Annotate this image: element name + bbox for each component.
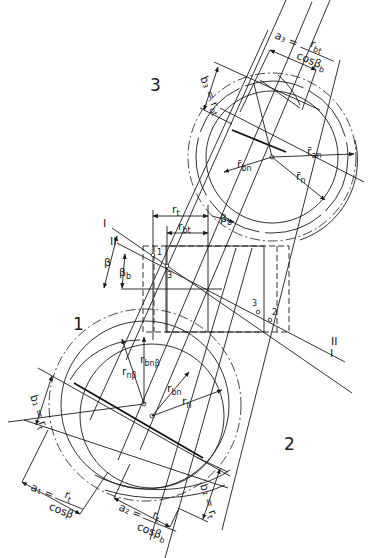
svg-text:a₂ =: a₂ =	[117, 501, 144, 522]
beta-b-label: βb	[119, 266, 131, 281]
band-line-3	[126, 0, 286, 360]
point-1-label: 1	[157, 248, 162, 257]
ext-a1-right	[80, 472, 108, 514]
rn-bar-label: r̄n	[296, 170, 306, 185]
line-I-bottom-label: I	[330, 347, 333, 360]
b3-formula: b₃ = rbt	[195, 74, 224, 117]
svg-text:a₃ =: a₃ =	[273, 29, 300, 50]
point-2	[268, 318, 272, 322]
svg-text:rt: rt	[62, 488, 75, 505]
region-1-label: 1	[73, 314, 84, 334]
rn-label: rn	[182, 395, 192, 410]
a2-formula: a₂ = rt cosβb	[112, 495, 181, 548]
region-2-label: 2	[284, 434, 295, 454]
line-II-top-label: II	[110, 235, 117, 248]
svg-text:b₂ = rt: b₂ = rt	[195, 482, 220, 520]
section-3-group	[188, 50, 364, 241]
point-3a-label: 3	[167, 271, 172, 280]
ext-a2-left	[114, 464, 130, 498]
b2-formula: b₂ = rt	[195, 482, 220, 520]
band-line-2	[118, 2, 312, 460]
point-3a	[165, 264, 169, 268]
gear-geometry-diagram: 3 1 2 I II II I 1 3 3 2 β βb βb rt rbt a…	[0, 0, 376, 558]
line-I-top-label: I	[103, 217, 106, 230]
b1-formula: b₁ = rt	[25, 393, 50, 431]
ext-a1-left	[22, 430, 48, 482]
a3-formula: a₃ = rbt cosβb	[268, 23, 339, 77]
svg-text:b₁ = rt: b₁ = rt	[25, 393, 50, 431]
region-3-label: 3	[150, 75, 161, 95]
rbn-bar-label: r̄bn	[237, 158, 252, 173]
rbn-label: rbn	[167, 382, 182, 397]
point-3b	[256, 310, 260, 314]
tangent-line-3	[232, 130, 286, 152]
band-line-6	[150, 248, 236, 540]
ran-bar-label: r̄an	[307, 145, 322, 160]
ext-a3-right	[302, 70, 316, 110]
band-line-7	[222, 60, 340, 530]
point-3b-label: 3	[252, 299, 257, 308]
svg-text:a₁ =: a₁ =	[29, 481, 56, 502]
beta-label: β	[104, 256, 111, 269]
point-1	[151, 253, 155, 257]
point-2-label: 2	[272, 308, 277, 317]
svg-text:cosβ: cosβ	[47, 500, 76, 522]
rbnbeta-label: rbnβ	[140, 353, 160, 368]
beta-b-top-label: βb	[220, 212, 232, 227]
rt-label: rt	[172, 203, 180, 218]
ext-b2-top	[196, 457, 228, 472]
ext-b2-bottom	[178, 508, 208, 522]
svg-text:cosβb: cosβb	[294, 49, 328, 75]
rnbeta-label: rnβ	[122, 365, 137, 380]
radial-line-3	[254, 84, 272, 157]
construction-line-1c	[8, 404, 144, 422]
svg-text:b₃ = rbt: b₃ = rbt	[195, 74, 224, 117]
a1-formula: a₁ = rt cosβ	[25, 475, 88, 524]
rbt-label: rbt	[178, 220, 191, 235]
